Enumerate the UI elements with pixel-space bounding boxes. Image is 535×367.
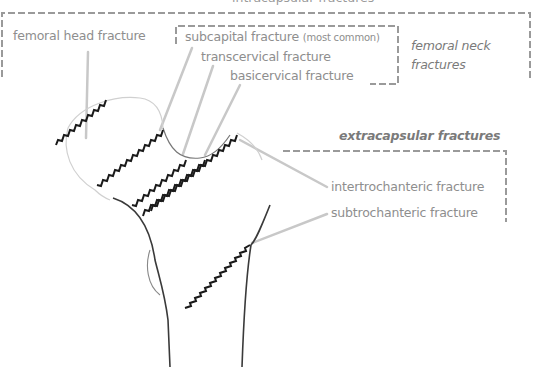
fracture-subcapital xyxy=(97,130,163,186)
fracture-femoral-head xyxy=(56,100,106,145)
femur-fracture-diagram: intracapsular fractures femoral neck fra… xyxy=(0,0,535,367)
label-femoral-head-fracture: femoral head fracture xyxy=(13,30,146,43)
leader-intertrochanteric xyxy=(240,140,327,187)
femoral-neck-title-line1: femoral neck xyxy=(411,38,491,54)
leader-femoral-head xyxy=(86,52,88,138)
leader-subcapital xyxy=(160,48,192,130)
label-basicervical-fracture: basicervical fracture xyxy=(230,70,353,83)
extracapsular-fractures-title: extracapsular fractures xyxy=(339,128,500,144)
bone-faint-outline xyxy=(66,97,262,200)
label-subcapital-fracture: subcapital fracture (most common) xyxy=(185,31,380,44)
subcapital-note: (most common) xyxy=(303,32,380,43)
subcapital-text: subcapital fracture xyxy=(185,29,299,44)
femoral-neck-fractures-title: femoral neck fractures xyxy=(411,38,491,73)
label-transcervical-fracture: transcervical fracture xyxy=(201,51,331,64)
label-intertrochanteric-fracture: intertrochanteric fracture xyxy=(331,181,484,194)
femoral-neck-title-line2: fractures xyxy=(411,57,491,73)
leader-transcervical xyxy=(183,66,213,154)
fracture-subtrochanteric xyxy=(185,245,250,308)
label-subtrochanteric-fracture: subtrochanteric fracture xyxy=(331,207,478,220)
leader-subtrochanteric xyxy=(252,214,327,243)
intracapsular-fractures-title: intracapsular fractures xyxy=(232,0,374,5)
fracture-intertrochanteric xyxy=(151,135,237,211)
